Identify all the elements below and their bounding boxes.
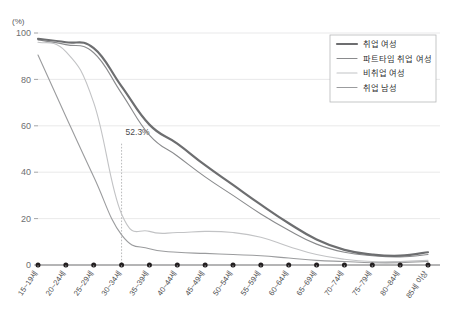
x-tick-label: 55~59세 <box>239 269 263 297</box>
y-tick-label: 60 <box>21 121 31 131</box>
x-tick-label: 60~64세 <box>267 269 291 297</box>
y-tick-label: 80 <box>21 75 31 85</box>
legend-label-1: 파트타임 취업 여성 <box>363 54 432 64</box>
legend: 취업 여성파트타임 취업 여성비취업 여성취업 남성 <box>330 35 436 102</box>
x-tick-label: 30~34세 <box>100 269 124 297</box>
y-tick-label: 40 <box>21 167 31 177</box>
legend-label-2: 비취업 여성 <box>363 68 405 78</box>
x-tick-label: 15~19세 <box>16 269 40 297</box>
x-tick-label: 45~49세 <box>183 269 207 297</box>
annotation-group: 52.3% <box>122 127 151 265</box>
x-tick-label: 25~29세 <box>72 269 96 297</box>
x-tick-label: 40~44세 <box>155 269 179 297</box>
y-axis-unit-label: (%) <box>12 17 25 26</box>
legend-label-3: 취업 남성 <box>363 84 397 93</box>
x-tick-label: 85세 이상 <box>403 268 429 300</box>
y-tick-label: 20 <box>21 214 31 224</box>
x-tick-label: 70~74세 <box>322 269 346 297</box>
x-tick-label: 75~79세 <box>350 269 374 297</box>
x-tick-label: 65~69세 <box>295 269 319 297</box>
x-axis-tick-labels: 15~19세20~24세25~29세30~34세35~39세40~44세45~4… <box>16 265 430 300</box>
line-chart: 020406080100 52.3% 15~19세20~24세25~29세30~… <box>0 0 451 318</box>
legend-label-0: 취업 여성 <box>363 39 397 49</box>
chart-container: 020406080100 52.3% 15~19세20~24세25~29세30~… <box>0 0 451 318</box>
y-tick-label: 0 <box>26 260 31 270</box>
y-axis-tick-labels: 020406080100 <box>16 28 38 270</box>
x-tick-label: 20~24세 <box>44 269 68 297</box>
y-tick-label: 100 <box>16 28 31 38</box>
x-tick-label: 35~39세 <box>127 269 151 297</box>
x-tick-label: 80~84세 <box>378 269 402 297</box>
x-tick-label: 50~54세 <box>211 269 235 297</box>
